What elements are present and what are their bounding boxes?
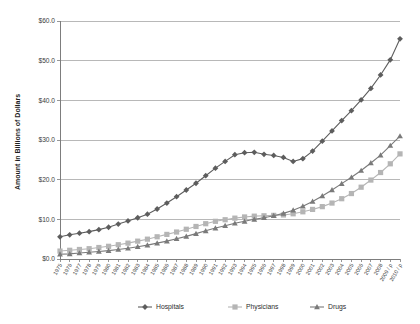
- data-point-marker: [223, 217, 228, 222]
- data-point-marker: [368, 177, 373, 182]
- y-tick-label: $40.0: [38, 97, 55, 104]
- data-point-marker: [388, 161, 393, 166]
- line-chart: $0.0$10.0$20.0$30.0$40.0$50.0$60.0 19751…: [0, 0, 420, 324]
- legend-swatch-marker: [142, 304, 148, 310]
- y-axis-title-label: Amount in Billions of Dollars: [14, 94, 21, 190]
- data-point-marker: [125, 241, 130, 246]
- data-point-marker: [329, 200, 334, 205]
- data-point-marker: [300, 209, 305, 214]
- data-point-marker: [203, 221, 208, 226]
- legend-item-physicians[interactable]: Physicians: [228, 303, 279, 311]
- data-point-marker: [184, 227, 189, 232]
- y-axis-title: Amount in Billions of Dollars: [14, 94, 21, 190]
- data-point-marker: [359, 185, 364, 190]
- data-point-marker: [116, 242, 121, 247]
- legend-label: Physicians: [246, 303, 279, 311]
- data-point-marker: [320, 204, 325, 209]
- data-point-marker: [232, 216, 237, 221]
- legend-item-drugs[interactable]: Drugs: [310, 303, 347, 311]
- y-tick-label: $0.0: [42, 255, 55, 262]
- legend-swatch-marker: [232, 304, 237, 309]
- legend-label: Drugs: [328, 303, 347, 311]
- data-point-marker: [310, 207, 315, 212]
- y-tick-label: $20.0: [38, 176, 55, 183]
- data-point-marker: [213, 219, 218, 224]
- chart-container: $0.0$10.0$20.0$30.0$40.0$50.0$60.0 19751…: [0, 0, 420, 324]
- legend-item-hospitals[interactable]: Hospitals: [138, 303, 185, 311]
- data-point-marker: [145, 237, 150, 242]
- data-point-marker: [155, 234, 160, 239]
- legend-label: Hospitals: [156, 303, 185, 311]
- y-axis: $0.0$10.0$20.0$30.0$40.0$50.0$60.0: [38, 17, 60, 262]
- data-point-marker: [164, 232, 169, 237]
- data-point-marker: [397, 151, 402, 156]
- x-axis: 1975197619771978197919801981198219831984…: [52, 259, 403, 282]
- chart-legend: HospitalsPhysiciansDrugs: [138, 303, 347, 311]
- data-point-marker: [339, 196, 344, 201]
- data-point-marker: [174, 229, 179, 234]
- y-tick-label: $60.0: [38, 17, 55, 24]
- y-tick-label: $10.0: [38, 216, 55, 223]
- data-point-marker: [135, 239, 140, 244]
- data-point-marker: [193, 224, 198, 229]
- y-tick-label: $50.0: [38, 57, 55, 64]
- y-tick-label: $30.0: [38, 136, 55, 143]
- data-point-marker: [378, 170, 383, 175]
- data-point-marker: [349, 191, 354, 196]
